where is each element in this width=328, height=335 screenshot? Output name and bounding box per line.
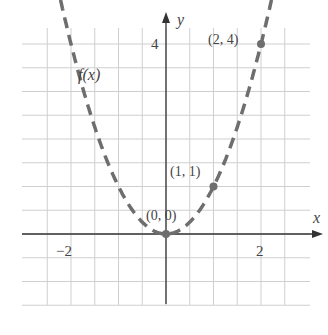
plot-area: x y −2 2 4 f(x) (0, 0) (1, 1) (2, 4) bbox=[0, 0, 328, 335]
point-label-origin: (0, 0) bbox=[146, 208, 177, 224]
data-point bbox=[257, 40, 265, 48]
point-label-1-1: (1, 1) bbox=[170, 164, 201, 180]
x-axis-arrow-icon bbox=[312, 230, 323, 238]
x-tick-label-2: 2 bbox=[256, 243, 264, 259]
data-point bbox=[210, 183, 218, 191]
data-point bbox=[162, 230, 170, 238]
point-label-2-4: (2, 4) bbox=[208, 32, 239, 48]
y-axis-arrow-icon bbox=[162, 12, 170, 23]
y-tick-label-4: 4 bbox=[151, 36, 159, 52]
axes bbox=[22, 12, 323, 304]
function-label: f(x) bbox=[78, 66, 100, 84]
y-axis-label: y bbox=[175, 11, 185, 29]
x-tick-label-neg2: −2 bbox=[56, 243, 72, 259]
x-axis-label: x bbox=[312, 209, 320, 226]
